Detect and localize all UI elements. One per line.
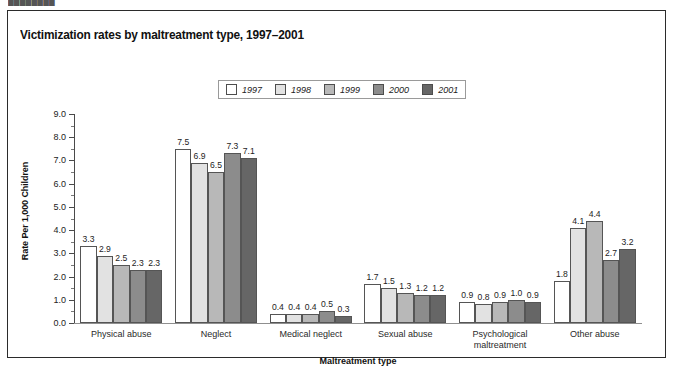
bar [302,314,318,323]
bar-value-label: 7.3 [226,141,238,151]
cut-off-text-fragment: ████████ [8,0,103,6]
bar [554,281,570,323]
bar-value-label: 0.8 [478,292,490,302]
bar [619,249,635,323]
bar [97,256,113,323]
bar-value-label: 3.3 [83,234,95,244]
bar [570,228,586,323]
bar [508,300,524,323]
bar [525,302,541,323]
bar-value-label: 1.0 [510,288,522,298]
bar-value-label: 4.1 [572,216,584,226]
bar-value-label: 0.5 [321,299,333,309]
bar-value-label: 0.9 [461,290,473,300]
category-label: Sexual abuse [378,329,433,340]
category-label: Neglect [201,329,232,340]
category-label: Medical neglect [279,329,342,340]
bar-value-label: 1.5 [383,276,395,286]
category-label: Psychological maltreatment [472,329,527,351]
bar-value-label: 2.3 [148,258,160,268]
bar-value-label: 1.2 [416,283,428,293]
bar [364,284,380,323]
bar [224,153,240,323]
x-axis-title: Maltreatment type [319,356,396,366]
bar [286,314,302,323]
bar-value-label: 4.4 [589,209,601,219]
bar-value-label: 1.7 [367,272,379,282]
bar-value-label: 0.4 [305,302,317,312]
bar [459,302,475,323]
bar-value-label: 7.1 [243,146,255,156]
bar [270,314,286,323]
bar [397,293,413,323]
bar-value-label: 0.9 [494,290,506,300]
bar [208,172,224,323]
bar-value-label: 2.5 [115,253,127,263]
bar [414,295,430,323]
bar [113,265,129,323]
bar-value-label: 0.3 [337,304,349,314]
bar-value-label: 0.4 [272,302,284,312]
bar [191,163,207,323]
bar-value-label: 2.9 [99,244,111,254]
bar-value-label: 7.5 [177,137,189,147]
plot-area: Rate Per 1,000 Children 0.01.02.03.04.05… [8,11,667,359]
bar [475,304,491,323]
bar-value-label: 2.7 [605,248,617,258]
bar-value-label: 1.2 [432,283,444,293]
category-label: Physical abuse [91,329,152,340]
bar-value-label: 1.3 [399,281,411,291]
bar-value-label: 3.2 [621,237,633,247]
category-label: Other abuse [570,329,620,340]
bar [241,158,257,323]
bar [586,221,602,323]
bar [335,316,351,323]
bar-value-label: 6.5 [210,160,222,170]
bar-value-label: 1.8 [556,269,568,279]
bar-value-label: 6.9 [194,151,206,161]
bar [80,246,96,323]
bar [381,288,397,323]
bar [175,149,191,323]
bar [319,311,335,323]
bar [130,270,146,323]
figure-frame: Victimization rates by maltreatment type… [7,10,666,358]
bars-layer: 3.32.92.52.32.37.56.96.57.37.10.40.40.40… [8,11,667,359]
bar [146,270,162,323]
bar [430,295,446,323]
bar-value-label: 0.4 [288,302,300,312]
bar [603,260,619,323]
bar-value-label: 0.9 [527,290,539,300]
bar [492,302,508,323]
bar-value-label: 2.3 [132,258,144,268]
